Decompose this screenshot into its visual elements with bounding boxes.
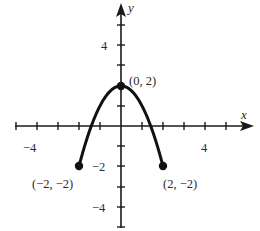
y-tick-label-4: 4	[101, 39, 108, 53]
y-tick-label-neg4: −4	[92, 201, 106, 215]
point-label-left: (−2, −2)	[32, 177, 73, 191]
coordinate-plane: y x −4 4 4 −2 −4 (0, 2) (−2, −2) (2, −2)	[0, 0, 260, 231]
y-tick-label-neg2: −2	[92, 160, 105, 174]
x-tick-label-neg4: −4	[23, 141, 37, 155]
x-axis-label: x	[240, 107, 247, 122]
point-label-right: (2, −2)	[163, 177, 197, 191]
point-vertex	[117, 82, 125, 90]
point-left-endpoint	[75, 162, 83, 170]
x-tick-label-4: 4	[201, 141, 208, 155]
point-label-vertex: (0, 2)	[129, 74, 156, 88]
point-right-endpoint	[159, 162, 167, 170]
y-axis-label: y	[126, 0, 134, 15]
graph-figure: y x −4 4 4 −2 −4 (0, 2) (−2, −2) (2, −2)	[0, 0, 260, 231]
